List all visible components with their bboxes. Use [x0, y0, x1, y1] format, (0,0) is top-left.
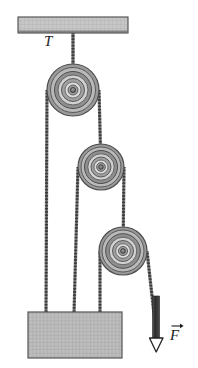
pulley-system-diagram: [0, 0, 198, 368]
pulley-bottom: [99, 227, 147, 275]
rope-pulley2-left-to-block: [74, 167, 78, 314]
tension-label: T: [44, 33, 52, 50]
rope-pulley1-left-to-block: [46, 90, 47, 314]
pulley-middle: [78, 144, 124, 190]
load-block: [28, 312, 122, 358]
vector-arrow-icon: [171, 322, 184, 329]
ceiling-support: [18, 17, 128, 33]
force-label-group: F: [170, 327, 179, 344]
force-label: F: [170, 327, 179, 343]
pulley-top: [47, 64, 99, 116]
figure-canvas: T F: [0, 0, 198, 368]
